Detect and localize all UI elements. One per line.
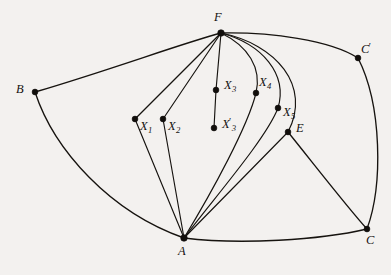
edge-X3-X3prime xyxy=(214,90,216,128)
vertex-label-C: C xyxy=(366,234,374,247)
vertex-label-A: A xyxy=(178,245,186,258)
vertex-label-X5: X5 xyxy=(283,106,295,120)
edge-X4-A xyxy=(184,93,256,238)
edge-X1-A xyxy=(135,119,184,238)
vertex-label-X4: X4 xyxy=(259,76,271,90)
vertex-A xyxy=(181,235,188,242)
vertex-E xyxy=(285,129,291,135)
edge-E-C xyxy=(288,132,367,229)
graph-canvas xyxy=(0,0,391,275)
vertex-X2 xyxy=(160,116,166,122)
vertex-C-prime xyxy=(355,55,361,61)
vertex-C xyxy=(364,226,370,232)
vertex-X1 xyxy=(132,116,138,122)
vertex-X5 xyxy=(275,105,281,111)
vertex-label-X1: X1 xyxy=(140,120,152,134)
edge-F-B xyxy=(35,33,221,92)
vertex-label-X3-prime: X′3 xyxy=(222,117,236,132)
vertex-label-X3: X3 xyxy=(224,79,236,93)
vertex-label-C-prime: C′ xyxy=(361,42,371,55)
vertex-X3-prime xyxy=(211,125,217,131)
vertex-label-E: E xyxy=(296,122,304,135)
edge-E-A xyxy=(184,132,288,238)
vertex-X3 xyxy=(213,87,219,93)
edge-A-C xyxy=(184,229,367,241)
edge-Cprime-C xyxy=(358,58,378,229)
vertex-B xyxy=(32,89,38,95)
edge-F-X3 xyxy=(216,33,221,90)
vertex-F xyxy=(218,30,225,37)
graph-diagram-figure: F B A C C′ E X1 X2 X3 X′3 X4 X5 xyxy=(0,0,391,275)
vertex-label-X2: X2 xyxy=(168,120,180,134)
vertex-label-F: F xyxy=(214,11,222,24)
vertex-label-B: B xyxy=(16,83,24,96)
edge-F-Cprime xyxy=(221,33,358,58)
edge-B-A xyxy=(35,92,184,238)
vertex-X4 xyxy=(253,90,259,96)
edge-F-X2 xyxy=(163,33,221,119)
edge-F-X5 xyxy=(221,33,280,108)
edge-X2-A xyxy=(163,119,184,238)
